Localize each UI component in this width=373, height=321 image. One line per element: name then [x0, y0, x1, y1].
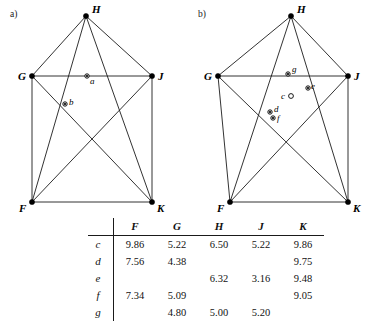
- cell-c-f: 9.86: [114, 236, 157, 254]
- cell-d-h: [198, 253, 240, 270]
- edge-b-h-g: [218, 16, 291, 76]
- cell-e-h: 6.32: [198, 270, 240, 287]
- point-a-center: [86, 75, 88, 77]
- column-header-f: F: [114, 218, 157, 236]
- table-corner-cell: [88, 218, 114, 236]
- point-label-b: b: [69, 97, 74, 107]
- point-label-e: e: [311, 81, 315, 91]
- edge-b-h-f: [230, 16, 291, 202]
- cell-c-k: 9.86: [282, 236, 324, 254]
- vertex-g-dot: [29, 73, 34, 78]
- cell-d-k: 9.75: [282, 253, 324, 270]
- column-header-j: J: [240, 218, 282, 236]
- column-header-h: H: [198, 218, 240, 236]
- vertex-b-f-dot: [227, 199, 232, 204]
- cell-c-j: 5.22: [240, 236, 282, 254]
- cell-c-g: 5.22: [156, 236, 198, 254]
- panel-a-edges: [32, 16, 152, 202]
- distance-table-container: F G H J K c 9.86 5.22 6.50 5.22 9.86 d: [88, 218, 328, 321]
- point-label-f: f: [277, 113, 281, 123]
- vertex-h-dot: [83, 13, 88, 18]
- panel-b-edges: [218, 16, 348, 202]
- cell-e-g: [156, 270, 198, 287]
- edge-h-k: [86, 16, 152, 202]
- cell-d-f: 7.56: [114, 253, 157, 270]
- cell-f-g: 5.09: [156, 287, 198, 304]
- graph-diagrams: a) H G: [0, 0, 373, 220]
- edge-h-j: [86, 16, 152, 76]
- panel-b-label: b): [198, 9, 206, 20]
- panel-a: a) H G: [10, 3, 165, 214]
- vertex-k-dot: [149, 199, 154, 204]
- table-header-row: F G H J K: [88, 218, 324, 236]
- cell-g-h: 5.00: [198, 304, 240, 321]
- figure-root: a) H G: [0, 0, 373, 321]
- panel-b-points: c d e f g: [268, 64, 315, 123]
- row-header-d: d: [88, 253, 114, 270]
- vertex-b-k-dot: [345, 199, 350, 204]
- cell-e-k: 9.48: [282, 270, 324, 287]
- cell-f-j: [240, 287, 282, 304]
- cell-g-g: 4.80: [156, 304, 198, 321]
- vertex-b-g-dot: [215, 73, 220, 78]
- table-row: d 7.56 4.38 9.75: [88, 253, 324, 270]
- vertex-b-label-j: J: [353, 70, 360, 82]
- point-label-a: a: [90, 76, 95, 86]
- vertex-label-f: F: [18, 202, 27, 214]
- cell-c-h: 6.50: [198, 236, 240, 254]
- table-row: g 4.80 5.00 5.20: [88, 304, 324, 321]
- panel-b: b) H G J: [198, 3, 361, 214]
- column-header-g: G: [156, 218, 198, 236]
- row-header-e: e: [88, 270, 114, 287]
- table-header: F G H J K: [88, 218, 324, 236]
- table-row: f 7.34 5.09 9.05: [88, 287, 324, 304]
- row-header-f: f: [88, 287, 114, 304]
- point-b-center: [64, 103, 66, 105]
- vertex-b-label-h: H: [296, 3, 306, 15]
- vertex-b-j-dot: [345, 73, 350, 78]
- point-g-center: [287, 73, 289, 75]
- vertex-b-label-f: F: [216, 202, 225, 214]
- edge-b-g-f: [218, 76, 230, 202]
- vertex-j-dot: [149, 73, 154, 78]
- cell-f-f: 7.34: [114, 287, 157, 304]
- vertex-b-h-dot: [288, 13, 293, 18]
- vertex-label-g: G: [18, 70, 26, 82]
- vertex-label-j: J: [157, 70, 164, 82]
- vertex-label-h: H: [91, 3, 101, 15]
- panel-a-label: a): [10, 9, 17, 20]
- edge-h-g: [32, 16, 86, 76]
- point-c-marker: [289, 94, 294, 99]
- cell-g-k: [282, 304, 324, 321]
- cell-e-f: [114, 270, 157, 287]
- vertex-f-dot: [29, 199, 34, 204]
- table-body: c 9.86 5.22 6.50 5.22 9.86 d 7.56 4.38 9…: [88, 236, 324, 321]
- cell-f-h: [198, 287, 240, 304]
- point-e-center: [307, 87, 309, 89]
- point-label-c: c: [281, 91, 285, 101]
- cell-d-j: [240, 253, 282, 270]
- table-row: e 6.32 3.16 9.48: [88, 270, 324, 287]
- distance-table: F G H J K c 9.86 5.22 6.50 5.22 9.86 d: [88, 218, 324, 321]
- point-d-center: [269, 111, 271, 113]
- row-header-c: c: [88, 236, 114, 254]
- edge-b-h-j: [291, 16, 348, 76]
- row-header-g: g: [88, 304, 114, 321]
- cell-e-j: 3.16: [240, 270, 282, 287]
- vertex-b-label-k: K: [352, 202, 361, 214]
- panel-b-vertices: H G J F K: [204, 3, 361, 214]
- panel-a-vertices: H G J F K: [18, 3, 165, 214]
- point-label-g: g: [292, 64, 297, 74]
- cell-d-g: 4.38: [156, 253, 198, 270]
- column-header-k: K: [282, 218, 324, 236]
- point-f-center: [272, 117, 274, 119]
- vertex-b-label-g: G: [204, 70, 212, 82]
- table-row: c 9.86 5.22 6.50 5.22 9.86: [88, 236, 324, 254]
- vertex-label-k: K: [156, 202, 165, 214]
- cell-g-j: 5.20: [240, 304, 282, 321]
- cell-g-f: [114, 304, 157, 321]
- cell-f-k: 9.05: [282, 287, 324, 304]
